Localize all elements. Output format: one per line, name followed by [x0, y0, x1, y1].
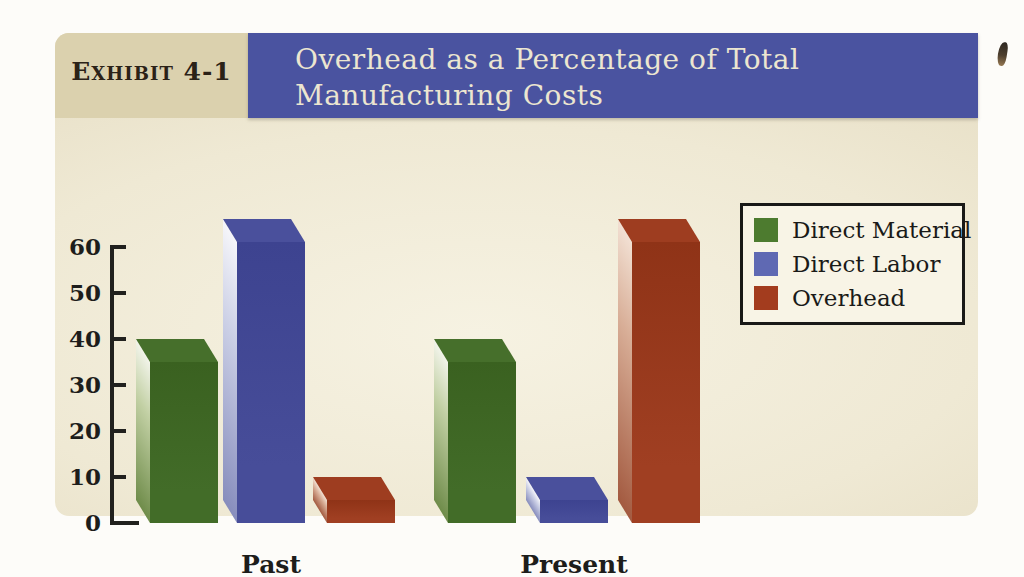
legend-item-2: Overhead: [754, 281, 962, 315]
y-tick-label-20: 20: [55, 418, 101, 444]
bar-side-past-1: [223, 219, 237, 523]
y-tick-label-40: 40: [55, 326, 101, 352]
bar-front-present-1: [540, 500, 608, 523]
bar-top-present-1: [526, 477, 608, 500]
legend-swatch-0: [754, 218, 778, 242]
legend-label-2: Overhead: [792, 285, 905, 311]
chart-title-line1: Overhead as a Percentage of Total: [295, 42, 799, 78]
bar-top-past-0: [136, 339, 218, 362]
y-tick-label-0: 0: [55, 510, 101, 536]
exhibit-number-box: Exhibit 4-1: [55, 33, 248, 118]
bar-side-present-0: [434, 339, 448, 523]
category-label-past: Past: [201, 550, 341, 577]
ink-speck: [996, 41, 1009, 66]
bar-front-present-0: [448, 362, 516, 523]
bar-top-present-2: [618, 219, 700, 242]
bar-top-past-1: [223, 219, 305, 242]
y-tick-20: [110, 429, 126, 433]
chart-title: Overhead as a Percentage of Total Manufa…: [295, 42, 799, 114]
bar-side-present-2: [618, 219, 632, 523]
chart-title-line2: Manufacturing Costs: [295, 78, 799, 114]
y-tick-label-60: 60: [55, 234, 101, 260]
y-tick-40: [110, 337, 126, 341]
bar-front-present-2: [632, 242, 700, 523]
category-label-present: Present: [504, 550, 644, 577]
y-tick-label-30: 30: [55, 372, 101, 398]
bar-side-past-0: [136, 339, 150, 523]
exhibit-panel: Exhibit 4-1 Overhead as a Percentage of …: [55, 33, 978, 516]
y-tick-50: [110, 291, 126, 295]
exhibit-number: Exhibit 4-1: [55, 57, 248, 86]
bar-front-past-0: [150, 362, 218, 523]
bar-front-past-2: [327, 500, 395, 523]
legend-swatch-1: [754, 252, 778, 276]
y-tick-60: [110, 245, 126, 249]
bar-front-past-1: [237, 242, 305, 523]
legend-label-1: Direct Labor: [792, 251, 940, 277]
title-banner: Overhead as a Percentage of Total Manufa…: [248, 33, 978, 118]
legend-swatch-2: [754, 286, 778, 310]
bar-top-past-2: [313, 477, 395, 500]
legend-label-0: Direct Material: [792, 217, 971, 243]
y-tick-label-50: 50: [55, 280, 101, 306]
y-tick-label-10: 10: [55, 464, 101, 490]
y-tick-30: [110, 383, 126, 387]
legend-item-1: Direct Labor: [754, 247, 962, 281]
bar-top-present-0: [434, 339, 516, 362]
y-tick-0: [110, 521, 139, 525]
chart-legend: Direct MaterialDirect LaborOverhead: [740, 203, 965, 325]
legend-item-0: Direct Material: [754, 213, 962, 247]
y-tick-10: [110, 475, 126, 479]
